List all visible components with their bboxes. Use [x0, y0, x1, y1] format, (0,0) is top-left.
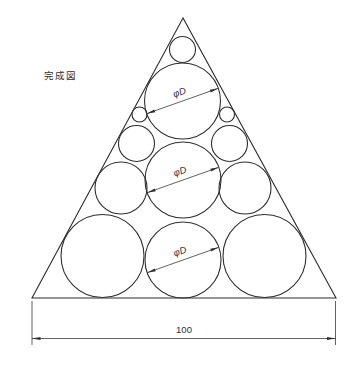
circle-bottom-left	[61, 215, 144, 298]
triangle-outline	[32, 18, 336, 298]
drawing-svg: φDφDφD100	[0, 0, 357, 371]
diameter-dim-arrowhead	[210, 167, 219, 171]
diameter-dim-arrowhead	[147, 188, 156, 192]
diameter-label: φD	[172, 244, 188, 259]
diameter-dim-arrowhead	[147, 268, 156, 272]
base-dim-arrowhead	[32, 337, 41, 340]
circle-right-small	[212, 126, 248, 162]
diameter-dim-arrowhead	[210, 247, 219, 251]
diameter-dim-arrowhead	[147, 109, 156, 113]
diameter-dim-arrowhead	[210, 88, 219, 92]
circle-left-tiny	[132, 107, 147, 122]
circle-apex-small	[170, 37, 196, 63]
base-dim-label: 100	[176, 324, 192, 335]
circle-right-tiny	[220, 107, 235, 122]
circle-left-medium	[95, 162, 147, 214]
circle-right-medium	[219, 162, 271, 214]
drawing-title: 完成図	[44, 68, 77, 82]
diameter-label: φD	[172, 164, 188, 179]
circle-left-small	[119, 126, 155, 162]
technical-drawing: φDφDφD100 完成図	[0, 0, 357, 371]
diameter-label: φD	[171, 85, 187, 100]
base-dim-arrowhead	[327, 337, 336, 340]
circle-bottom-right	[223, 215, 306, 298]
